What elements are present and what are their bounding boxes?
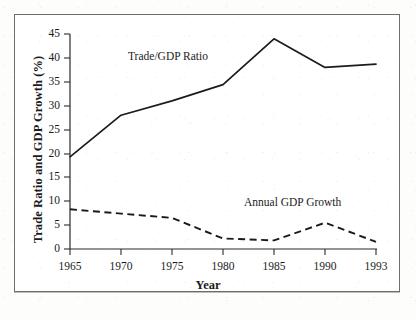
y-tick-label: 45 bbox=[32, 28, 60, 40]
x-tick-label: 1990 bbox=[302, 261, 348, 273]
y-axis-title: Trade Ratio and GDP Growth (%) bbox=[31, 40, 46, 260]
figure-page: 45 40 35 30 25 20 15 10 5 0 1965 1970 19… bbox=[0, 0, 416, 319]
x-tick-label: 1965 bbox=[47, 261, 93, 273]
caption-sliver bbox=[0, 309, 416, 319]
x-tick-label: 1993 bbox=[353, 261, 399, 273]
x-axis-title: Year bbox=[0, 278, 416, 293]
x-tick-label: 1980 bbox=[200, 261, 246, 273]
annotation-annual-gdp-growth: Annual GDP Growth bbox=[244, 196, 341, 208]
x-tick-label: 1985 bbox=[251, 261, 297, 273]
annotation-trade-gdp-ratio: Trade/GDP Ratio bbox=[128, 50, 208, 62]
x-tick-label: 1970 bbox=[98, 261, 144, 273]
x-tick-label: 1975 bbox=[149, 261, 195, 273]
